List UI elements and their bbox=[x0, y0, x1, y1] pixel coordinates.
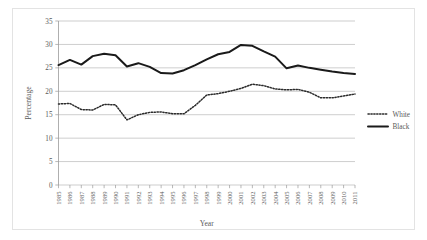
y-tick-label-20: 20 bbox=[45, 88, 53, 96]
x-tick-label-2003: 2003 bbox=[260, 191, 267, 205]
x-tick-label-1992: 1992 bbox=[135, 192, 142, 205]
x-ticks-group: 1985198619871988198919901991199219931994… bbox=[55, 185, 359, 205]
line-chart-canvas: 0510152025303519851986198719881989199019… bbox=[0, 0, 427, 240]
x-tick-label-1988: 1988 bbox=[89, 191, 96, 205]
x-tick-label-2005: 2005 bbox=[283, 191, 290, 205]
x-tick-label-2010: 2010 bbox=[340, 191, 347, 205]
y-tick-label-0: 0 bbox=[49, 182, 53, 190]
x-tick-label-1994: 1994 bbox=[158, 191, 165, 205]
x-tick-label-1999: 1999 bbox=[215, 191, 222, 205]
x-tick-label-2002: 2002 bbox=[249, 192, 256, 205]
x-tick-label-2009: 2009 bbox=[329, 191, 336, 205]
y-tick-label-35: 35 bbox=[45, 18, 53, 26]
legend-label-white: White bbox=[393, 111, 411, 119]
y-tick-label-30: 30 bbox=[45, 41, 53, 49]
x-tick-label-2011: 2011 bbox=[351, 192, 358, 205]
series-line-black bbox=[59, 45, 356, 74]
x-tick-label-2004: 2004 bbox=[272, 191, 279, 205]
y-axis-title: Percentage bbox=[24, 86, 33, 120]
x-tick-label-1989: 1989 bbox=[101, 191, 108, 205]
x-tick-label-1990: 1990 bbox=[112, 191, 119, 205]
x-tick-label-1991: 1991 bbox=[123, 192, 130, 205]
x-tick-label-1987: 1987 bbox=[78, 191, 85, 205]
legend: WhiteBlack bbox=[368, 111, 410, 132]
x-tick-label-2008: 2008 bbox=[317, 191, 324, 205]
y-tick-label-10: 10 bbox=[45, 135, 53, 143]
x-tick-label-2007: 2007 bbox=[306, 191, 313, 205]
x-tick-label-2001: 2001 bbox=[237, 192, 244, 205]
x-axis-title: Year bbox=[200, 219, 214, 228]
chart-figure: 0510152025303519851986198719881989199019… bbox=[0, 0, 427, 240]
x-tick-label-1995: 1995 bbox=[169, 191, 176, 205]
x-tick-label-1986: 1986 bbox=[66, 191, 73, 205]
x-tick-label-1993: 1993 bbox=[146, 191, 153, 205]
gridlines-group: 05101520253035 bbox=[45, 18, 355, 190]
x-tick-label-1998: 1998 bbox=[203, 191, 210, 205]
x-tick-label-1996: 1996 bbox=[180, 191, 187, 205]
x-tick-label-2006: 2006 bbox=[294, 191, 301, 205]
x-tick-label-1985: 1985 bbox=[55, 191, 62, 205]
y-tick-label-5: 5 bbox=[49, 158, 53, 166]
y-tick-label-15: 15 bbox=[45, 111, 53, 119]
x-tick-label-2000: 2000 bbox=[226, 191, 233, 205]
legend-label-black: Black bbox=[393, 123, 410, 131]
y-tick-label-25: 25 bbox=[45, 64, 53, 72]
x-tick-label-1997: 1997 bbox=[192, 191, 199, 205]
